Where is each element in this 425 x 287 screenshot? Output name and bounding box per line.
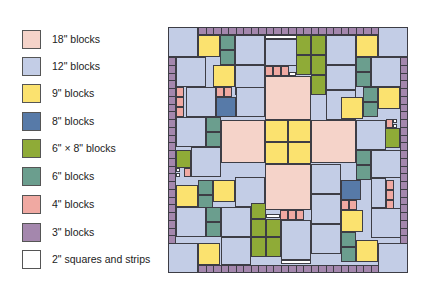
- block-b6x8: [176, 150, 191, 168]
- block-b12: [176, 207, 206, 237]
- block-b12: [176, 57, 206, 87]
- block-b12: [378, 243, 408, 273]
- block-b4: [280, 210, 288, 220]
- block-b6x8: [251, 237, 266, 257]
- block-b6: [356, 165, 371, 180]
- block-b6x8: [251, 203, 266, 219]
- block-b12: [311, 194, 341, 224]
- block-b9: [265, 142, 288, 164]
- block-b8: [341, 180, 361, 200]
- block-b6: [341, 232, 356, 247]
- block-b4: [386, 180, 394, 190]
- block-b9: [288, 120, 311, 142]
- block-b12: [371, 150, 401, 178]
- block-b12: [221, 237, 251, 265]
- block-b18: [311, 120, 356, 163]
- block-b6: [206, 207, 221, 222]
- block-b12: [311, 224, 341, 254]
- block-b6: [206, 222, 221, 237]
- block-b9: [356, 240, 378, 262]
- block-b8: [216, 97, 236, 117]
- block-b6x8: [266, 237, 281, 257]
- block-b12: [168, 27, 198, 57]
- block-b9: [176, 185, 198, 207]
- block-b9: [198, 243, 220, 265]
- block-b12: [326, 35, 356, 65]
- block-b12: [236, 87, 265, 117]
- block-b6: [356, 150, 371, 165]
- block-b9: [378, 87, 400, 109]
- block-b9: [213, 180, 235, 202]
- block-b6: [206, 117, 221, 132]
- block-b9: [198, 35, 220, 57]
- block-b12: [281, 220, 311, 260]
- block-b9: [265, 120, 288, 142]
- block-b4: [176, 107, 184, 117]
- block-b9: [356, 35, 378, 57]
- block-b2: [176, 173, 180, 177]
- block-b12: [176, 117, 206, 147]
- block-b6: [341, 247, 356, 262]
- block-b4: [386, 190, 394, 200]
- block-b12: [326, 65, 356, 90]
- block-b6x8: [296, 55, 311, 75]
- block-b6x8: [311, 55, 326, 75]
- block-b4: [176, 97, 184, 107]
- block-b4: [386, 119, 393, 128]
- block-b18: [265, 164, 311, 210]
- block-b2: [266, 214, 280, 218]
- block-b6x8: [266, 219, 281, 237]
- block-b4: [288, 210, 296, 220]
- block-b6: [363, 87, 378, 102]
- block-b9: [213, 65, 235, 87]
- block-b6: [356, 72, 371, 87]
- block-b6x8: [311, 35, 326, 55]
- block-b12: [356, 120, 386, 150]
- block-b18: [221, 120, 265, 163]
- block-b6: [206, 132, 221, 147]
- block-b6: [356, 57, 371, 72]
- block-b12: [311, 164, 341, 194]
- block-b12: [186, 87, 216, 117]
- block-b4: [265, 66, 273, 76]
- block-b2: [281, 260, 311, 264]
- block-b9: [341, 210, 363, 232]
- block-b4: [184, 168, 191, 177]
- block-b18: [265, 76, 311, 120]
- block-b4: [176, 87, 184, 97]
- block-b6: [198, 180, 213, 195]
- block-b12: [191, 147, 221, 177]
- block-b4: [273, 66, 281, 76]
- block-b2: [393, 119, 397, 123]
- block-b4: [296, 210, 304, 220]
- block-b6x8: [296, 35, 311, 55]
- block-b12: [168, 243, 198, 273]
- block-b12: [221, 207, 251, 237]
- block-b2: [176, 168, 180, 172]
- block-b9: [341, 97, 363, 119]
- block-b4: [281, 66, 289, 76]
- block-b6x8: [385, 128, 400, 148]
- block-b12: [235, 35, 265, 65]
- block-b12: [371, 208, 401, 238]
- block-b6: [363, 102, 378, 117]
- block-b6: [220, 35, 235, 50]
- block-b4: [216, 87, 224, 97]
- block-b12: [371, 178, 386, 208]
- block-b4: [349, 200, 357, 210]
- block-b9: [288, 142, 311, 164]
- block-b12: [371, 57, 401, 87]
- block-b4: [224, 87, 232, 97]
- block-b6x8: [311, 75, 326, 95]
- block-b6: [220, 50, 235, 65]
- quilt-diagram: [0, 0, 425, 287]
- block-b6x8: [251, 219, 266, 237]
- block-b4: [341, 200, 349, 210]
- block-b12: [378, 27, 408, 57]
